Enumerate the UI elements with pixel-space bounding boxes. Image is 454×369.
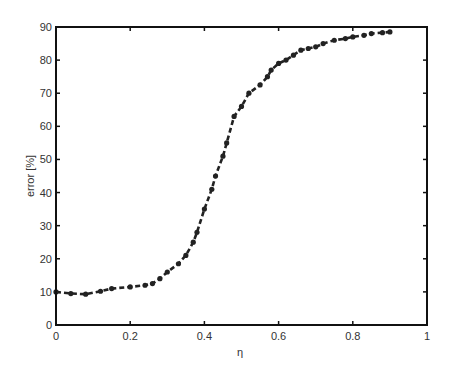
x-tick-label: 0 xyxy=(53,330,59,342)
data-point-marker xyxy=(321,41,326,46)
data-point-marker xyxy=(298,48,303,53)
x-tick-label: 0.6 xyxy=(271,330,286,342)
y-tick-label: 40 xyxy=(40,187,52,199)
data-point-marker xyxy=(387,29,392,34)
data-point-marker xyxy=(239,104,244,109)
y-tick-label: 30 xyxy=(40,220,52,232)
data-point-marker xyxy=(369,31,374,36)
data-point-marker xyxy=(343,36,348,41)
data-point-marker xyxy=(128,284,133,289)
data-point-marker xyxy=(142,283,147,288)
data-point-marker xyxy=(191,240,196,245)
data-point-marker xyxy=(313,44,318,49)
data-point-marker xyxy=(220,154,225,159)
plot-frame xyxy=(56,27,427,325)
y-axis-ticks: 0102030405060708090 xyxy=(40,21,427,331)
series-line xyxy=(56,32,390,294)
data-point-marker xyxy=(98,289,103,294)
x-tick-label: 0.2 xyxy=(123,330,138,342)
y-tick-label: 90 xyxy=(40,21,52,33)
data-point-marker xyxy=(361,33,366,38)
data-point-marker xyxy=(209,187,214,192)
y-tick-label: 20 xyxy=(40,253,52,265)
x-tick-label: 0.8 xyxy=(345,330,360,342)
data-series xyxy=(53,29,392,296)
data-point-marker xyxy=(150,281,155,286)
data-point-marker xyxy=(306,46,311,51)
y-tick-label: 0 xyxy=(46,319,52,331)
data-point-marker xyxy=(109,286,114,291)
data-point-marker xyxy=(194,230,199,235)
x-tick-label: 0.4 xyxy=(197,330,212,342)
data-point-marker xyxy=(265,74,270,79)
y-axis-label: error [%] xyxy=(24,155,36,197)
data-point-marker xyxy=(68,291,73,296)
data-point-marker xyxy=(224,140,229,145)
x-axis-label: η xyxy=(237,346,243,358)
data-point-marker xyxy=(246,91,251,96)
data-point-marker xyxy=(283,58,288,63)
data-point-marker xyxy=(176,261,181,266)
data-point-marker xyxy=(83,292,88,297)
y-tick-label: 80 xyxy=(40,54,52,66)
y-tick-label: 50 xyxy=(40,153,52,165)
data-point-marker xyxy=(165,269,170,274)
error-vs-eta-chart: 0102030405060708090 00.20.40.60.81 η err… xyxy=(0,0,454,369)
data-point-marker xyxy=(231,114,236,119)
data-point-marker xyxy=(291,53,296,58)
data-point-marker xyxy=(269,67,274,72)
data-point-marker xyxy=(157,276,162,281)
x-tick-label: 1 xyxy=(424,330,430,342)
data-point-marker xyxy=(202,207,207,212)
data-point-marker xyxy=(213,173,218,178)
data-point-marker xyxy=(380,30,385,35)
data-point-marker xyxy=(350,34,355,39)
data-point-marker xyxy=(183,253,188,258)
y-tick-label: 10 xyxy=(40,286,52,298)
y-tick-label: 60 xyxy=(40,120,52,132)
x-axis-ticks: 00.20.40.60.81 xyxy=(53,27,430,342)
data-point-marker xyxy=(332,38,337,43)
y-tick-label: 70 xyxy=(40,87,52,99)
data-point-marker xyxy=(276,61,281,66)
data-point-marker xyxy=(257,82,262,87)
